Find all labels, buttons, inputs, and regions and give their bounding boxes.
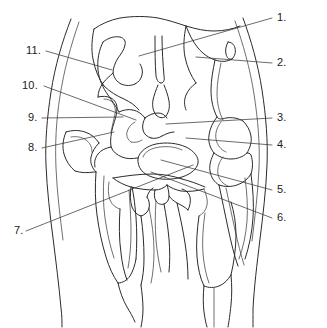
sacroiliac-detail-group [127, 85, 174, 142]
anatomical-figure: 1. 2. 3. 4. 5. 6. 7. 8. 9. 10. 11. [0, 0, 327, 328]
right-ilium-group [184, 26, 235, 120]
sacrum-pelvic-brim-group [92, 17, 240, 111]
left-acetabulum-group [63, 96, 137, 172]
label-11: 11. [26, 45, 41, 56]
anatomy-drawing-svg [0, 0, 327, 328]
left-femur-group [95, 172, 154, 327]
label-4: 4. [277, 139, 287, 150]
leader-line-9 [42, 117, 123, 118]
right-acetabulum-group [209, 117, 253, 187]
label-8: 8. [28, 142, 38, 153]
leader-line-7 [26, 165, 193, 231]
label-5: 5. [277, 184, 287, 195]
label-7: 7. [14, 225, 24, 236]
label-1: 1. [277, 12, 287, 23]
right-femur-group [197, 174, 254, 327]
label-10: 10. [22, 80, 38, 91]
midline-lower-group [155, 201, 188, 279]
leader-line-5 [161, 160, 272, 190]
leader-line-1 [139, 18, 272, 56]
label-9: 9. [28, 112, 38, 123]
leader-line-8 [42, 132, 114, 148]
obturator-foramen-group [108, 182, 207, 216]
label-6: 6. [277, 212, 287, 223]
label-2: 2. [277, 57, 287, 68]
label-3: 3. [277, 112, 287, 123]
leader-line-2 [196, 57, 272, 63]
